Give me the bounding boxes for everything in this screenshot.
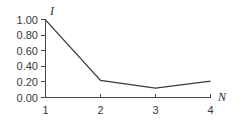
chart-figure: 0.00 0.20 0.40 0.60 0.80 1.00 1 2 3 4 I … [0, 0, 245, 129]
y-tick-label: 1.00 [17, 14, 38, 26]
y-tick-label: 0.40 [17, 60, 38, 72]
y-tick-label: 0.00 [17, 92, 38, 104]
y-tick-label: 0.20 [17, 76, 38, 88]
x-tick-label: 3 [152, 104, 158, 116]
line-chart: 0.00 0.20 0.40 0.60 0.80 1.00 1 2 3 4 I … [0, 0, 245, 129]
y-tick-label: 0.60 [17, 45, 38, 57]
x-tick-label: 4 [207, 104, 213, 116]
y-tick-label: 0.80 [17, 29, 38, 41]
x-tick-label: 1 [42, 104, 48, 116]
x-tick-label: 2 [97, 104, 103, 116]
x-axis-title: N [217, 90, 227, 104]
